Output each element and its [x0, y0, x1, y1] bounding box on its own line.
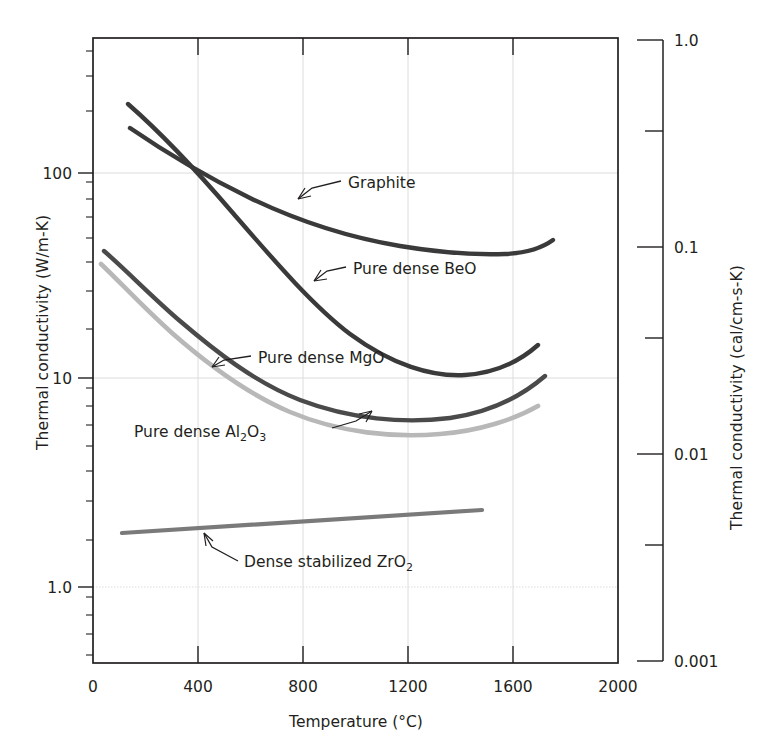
y2-tick-0001: 0.001 — [674, 653, 718, 671]
x-tick-400: 400 — [183, 678, 213, 696]
y2-tick-1: 1.0 — [674, 32, 699, 50]
x-axis-ticks-top — [198, 38, 513, 55]
x-tick-800: 800 — [288, 678, 318, 696]
label-zro2-main: Dense stabilized ZrO — [244, 553, 406, 571]
label-zro2: Dense stabilized ZrO2 — [244, 553, 413, 574]
x-axis-title: Temperature (°C) — [288, 713, 423, 731]
y-tick-1: 1.0 — [47, 579, 72, 597]
label-al2o3: Pure dense Al2O3 — [134, 423, 266, 444]
x-tick-1600: 1600 — [493, 678, 532, 696]
annotation-leaders — [204, 181, 372, 561]
data-curves — [101, 104, 553, 533]
x-tick-2000: 2000 — [598, 678, 637, 696]
label-al2o3-sub2: 3 — [259, 431, 266, 444]
chart-svg: 0 400 800 1200 1600 2000 Temperature (°C… — [0, 0, 764, 752]
y-tick-10: 10 — [52, 370, 72, 388]
y-axis-title-right: Thermal conductivity (cal/cm-s-K) — [728, 265, 746, 530]
label-al2o3-sub1: 2 — [240, 431, 247, 444]
y2-tick-01: 0.1 — [674, 239, 699, 257]
label-al2o3-main: Pure dense Al — [134, 423, 240, 441]
y-tick-100: 100 — [42, 165, 72, 183]
x-axis-ticks-bottom — [198, 646, 513, 663]
curve-graphite — [130, 128, 553, 254]
y2-tick-001: 0.01 — [674, 446, 709, 464]
y-axis-title-left: Thermal conductivity (W/m-K) — [34, 215, 52, 450]
x-tick-0: 0 — [88, 678, 98, 696]
right-axis-tick-labels: 1.0 0.1 0.01 0.001 — [674, 32, 718, 671]
label-zro2-sub: 2 — [406, 561, 413, 574]
x-tick-1200: 1200 — [388, 678, 427, 696]
curve-beo — [128, 104, 538, 375]
right-axis-ticks — [637, 40, 663, 661]
y-axis-major-ticks-left — [78, 173, 93, 587]
label-mgo: Pure dense MgO — [258, 349, 385, 367]
label-beo: Pure dense BeO — [353, 260, 477, 278]
curve-zro2 — [122, 510, 482, 533]
thermal-conductivity-chart: Thermal conductivity (W/m-K) Thermal con… — [0, 0, 764, 752]
leader-graphite — [298, 181, 341, 199]
label-al2o3-mid: O — [247, 423, 259, 441]
y-axis-minor-ticks-left — [86, 51, 93, 655]
curve-mgo — [104, 251, 545, 420]
label-graphite: Graphite — [348, 174, 415, 192]
leader-zro2-arrow — [204, 533, 213, 546]
x-axis-tick-labels: 0 400 800 1200 1600 2000 — [88, 678, 638, 696]
